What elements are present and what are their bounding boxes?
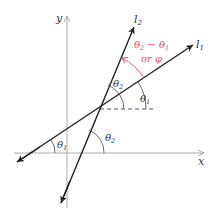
line-l1-lower-arrow bbox=[17, 147, 40, 162]
difference-annotation-line2: or φ bbox=[141, 53, 162, 64]
theta1-bottom-label: θ1 bbox=[57, 139, 67, 152]
line-l1 bbox=[17, 45, 193, 162]
difference-annotation-line1: θ2 − θ1 bbox=[134, 39, 169, 52]
x-axis-label: x bbox=[198, 155, 205, 168]
theta2-bottom-label: θ2 bbox=[105, 132, 115, 145]
line-l1-label: l1 bbox=[196, 38, 204, 52]
arc-theta2-bottom bbox=[89, 130, 104, 153]
line-l2-lower-arrow bbox=[61, 181, 70, 203]
theta1-top-label: θ1 bbox=[140, 93, 150, 106]
line-l2 bbox=[61, 27, 134, 203]
angle-between-lines-diagram: y x l2 l1 θ2 − θ1 or φ θ2 θ1 θ1 θ2 bbox=[0, 0, 216, 218]
line-l2-label: l2 bbox=[134, 13, 143, 27]
y-axis-label: y bbox=[55, 12, 63, 25]
arc-theta1-bottom bbox=[51, 140, 55, 153]
